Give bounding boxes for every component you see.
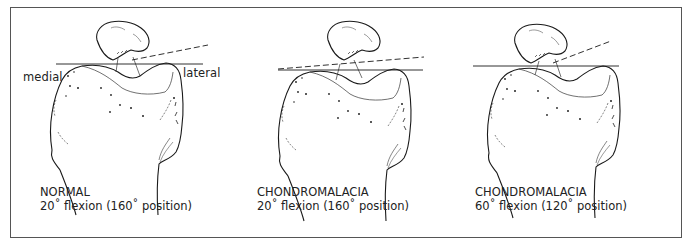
medial-label: medial	[23, 71, 63, 84]
panel-2-title: CHONDROMALACIA	[257, 186, 409, 200]
panel-1-subtitle: 20˚ flexion (160˚ position)	[40, 200, 192, 214]
panel-3-subtitle: 60˚ flexion (120˚ position)	[475, 200, 627, 214]
panel-1-caption: NORMAL 20˚ flexion (160˚ position)	[40, 186, 192, 213]
panel-2-caption: CHONDROMALACIA 20˚ flexion (160˚ positio…	[257, 186, 409, 213]
panel-1-title: NORMAL	[40, 186, 192, 200]
panel-3-title: CHONDROMALACIA	[475, 186, 627, 200]
lateral-label: lateral	[183, 67, 221, 80]
panel-3-caption: CHONDROMALACIA 60˚ flexion (120˚ positio…	[475, 186, 627, 213]
panel-2-subtitle: 20˚ flexion (160˚ position)	[257, 200, 409, 214]
